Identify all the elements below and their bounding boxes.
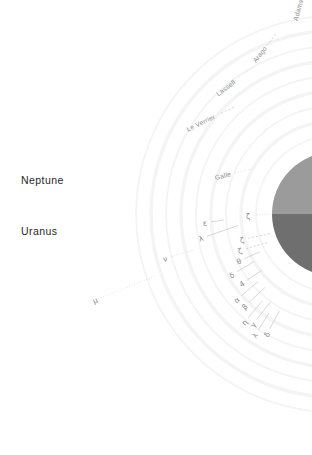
planet-disc bbox=[272, 152, 312, 276]
body-label-neptune: Neptune bbox=[21, 174, 64, 186]
planet-south-hemisphere bbox=[272, 214, 312, 276]
ring-system-diagram: Neptune Uranus GalleLe VerrierLassellAra… bbox=[0, 0, 312, 455]
uranus-ring-label-6: ζ bbox=[246, 212, 251, 221]
body-label-uranus: Uranus bbox=[21, 225, 58, 237]
planet-north-hemisphere bbox=[272, 152, 312, 214]
